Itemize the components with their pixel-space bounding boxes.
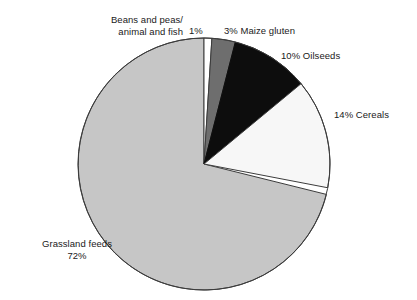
- slice-label-beans-and-peas: Beans and peas/ animal and fish: [33, 14, 183, 37]
- slice-label-beans-and-peas-percent: 1%: [189, 25, 203, 37]
- slice-label-grassland-feeds: Grassland feeds 72%: [12, 238, 142, 261]
- pie-chart-page: Beans and peas/ animal and fish 1% 3% Ma…: [0, 0, 417, 300]
- slice-label-maize-gluten: 3% Maize gluten: [224, 25, 295, 37]
- slice-label-oilseeds: 10% Oilseeds: [281, 50, 340, 62]
- slice-label-cereals: 14% Cereals: [334, 109, 389, 121]
